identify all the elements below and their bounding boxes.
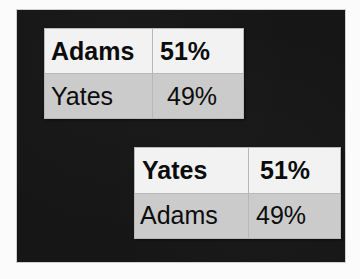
candidate-percent-cell: 49%	[249, 193, 341, 239]
table-row: Yates 49%	[45, 74, 244, 119]
table-row: Adams 51%	[45, 29, 244, 74]
result-table-adams-leading: Adams 51% Yates 49%	[44, 28, 244, 119]
candidate-percent-cell: 49%	[153, 74, 244, 119]
table-row: Adams 49%	[135, 193, 341, 239]
result-table-yates-leading: Yates 51% Adams 49%	[134, 147, 341, 239]
candidate-name-cell: Yates	[135, 148, 249, 194]
candidate-name-cell: Adams	[45, 29, 153, 74]
candidate-name-cell: Yates	[45, 74, 153, 119]
slide-frame: Adams 51% Yates 49% Yates 51% Adams 49%	[0, 0, 360, 279]
slide-canvas: Adams 51% Yates 49% Yates 51% Adams 49%	[17, 10, 345, 262]
table-row: Yates 51%	[135, 148, 341, 194]
candidate-percent-cell: 51%	[249, 148, 341, 194]
candidate-percent-cell: 51%	[153, 29, 244, 74]
candidate-name-cell: Adams	[135, 193, 249, 239]
